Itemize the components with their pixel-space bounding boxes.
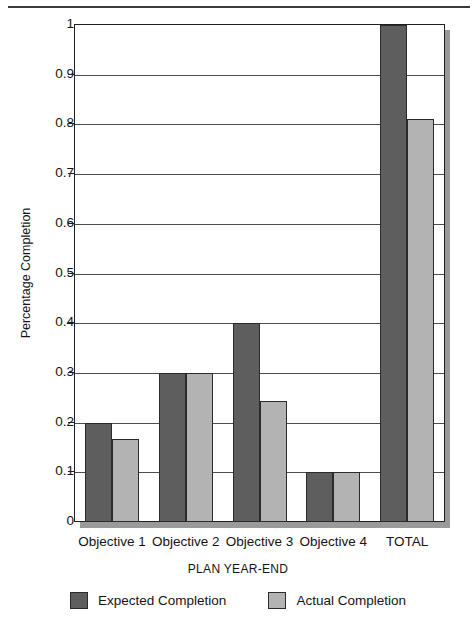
legend-swatch-expected [70,592,88,609]
bar-chart-figure: Percentage Completion 00.10.20.30.40.50.… [0,0,476,627]
y-axis-tick-label: 0.4 [10,315,74,329]
plot-shadow-right [445,30,450,528]
bar-actual [186,373,213,522]
chart-legend: Expected CompletionActual Completion [0,592,476,609]
y-axis-tick-label: 0.5 [10,266,74,280]
bar-expected [233,323,260,522]
legend-entry: Actual Completion [268,592,406,609]
x-axis-tick-label: TOTAL [370,534,444,550]
bar-actual [112,439,139,522]
bar-actual [333,472,360,522]
y-axis-tick-label: 0.7 [10,166,74,180]
x-axis-tick-label: Objective 4 [296,534,370,550]
y-axis-tick-label: 0.6 [10,216,74,230]
plot-shadow-bottom [80,522,450,528]
bars-layer [75,25,444,522]
y-axis: 00.10.20.30.40.50.60.70.80.91 [0,24,74,522]
x-axis-tick-label: Objective 2 [149,534,223,550]
bar-expected [159,373,186,522]
y-axis-tick-label: 0.9 [10,67,74,81]
bar-expected [85,423,112,522]
x-axis-tick-label: Objective 3 [223,534,297,550]
bar-expected [380,25,407,522]
y-axis-tick-label: 0.2 [10,415,74,429]
y-axis-tick-label: 1 [10,17,74,31]
y-axis-tick-label: 0.3 [10,365,74,379]
bar-expected [306,472,333,522]
legend-entry: Expected Completion [70,592,226,609]
x-axis-title: PLAN YEAR-END [0,562,476,576]
y-axis-tick-label: 0.8 [10,116,74,130]
y-axis-tick-label: 0 [10,514,74,528]
legend-label: Expected Completion [98,593,226,608]
bar-actual [407,119,434,522]
legend-label: Actual Completion [296,593,406,608]
x-axis-tick-labels: Objective 1Objective 2Objective 3Objecti… [75,534,444,554]
bar-actual [260,401,287,522]
top-horizontal-rule [8,6,470,8]
legend-swatch-actual [268,592,286,609]
x-axis-tick-label: Objective 1 [75,534,149,550]
y-axis-tick-label: 0.1 [10,464,74,478]
